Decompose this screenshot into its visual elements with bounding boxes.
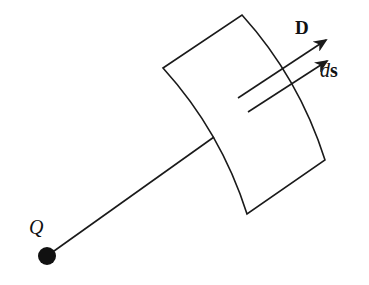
- label-Q: Q: [29, 217, 43, 237]
- surface-patch: [163, 15, 325, 214]
- label-ds-s: s: [330, 59, 338, 81]
- diagram-svg: [0, 0, 369, 285]
- label-ds: ds: [320, 60, 338, 80]
- label-ds-d: d: [320, 59, 330, 81]
- label-D: D: [295, 18, 309, 37]
- vector-ds-arrow: [248, 61, 327, 112]
- charge-point: [38, 247, 56, 265]
- diagram-canvas: D ds Q: [0, 0, 369, 285]
- radial-line: [47, 137, 214, 256]
